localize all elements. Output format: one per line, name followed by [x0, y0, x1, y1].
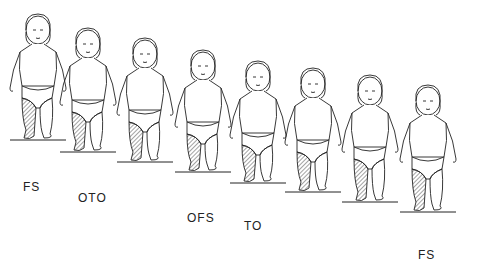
gait-cycle-illustration: FSOTOOFSTOFS: [0, 0, 478, 274]
toddler-figure: [230, 61, 286, 183]
toddler-figure: [60, 28, 116, 152]
toddler-figure: [342, 75, 398, 202]
gait-phase-label: OFS: [187, 211, 215, 225]
gait-phase-label: TO: [244, 219, 262, 233]
toddler-figures-drawing: [0, 0, 478, 274]
toddler-figure: [175, 50, 231, 172]
toddler-figure: [10, 14, 66, 140]
gait-phase-label: FS: [418, 248, 435, 262]
toddler-figure: [400, 85, 456, 212]
toddler-figure: [285, 68, 341, 192]
gait-phase-label: FS: [23, 180, 40, 194]
gait-phase-label: OTO: [78, 191, 107, 205]
toddler-figure: [117, 38, 173, 162]
